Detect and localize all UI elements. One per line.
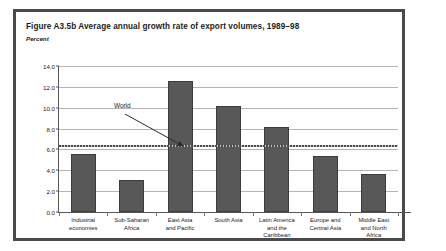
x-axis-category-line: and North: [344, 225, 404, 233]
y-axis-tick-label: 14.0: [43, 63, 55, 70]
x-axis-tick-mark: [204, 212, 205, 216]
figure-frame: Figure A3.5b Average annual growth rate …: [13, 9, 405, 241]
world-reference-line: [59, 145, 398, 147]
bar: [313, 156, 338, 212]
x-axis-tick-mark: [350, 212, 351, 216]
x-axis-baseline: [58, 212, 411, 213]
x-axis-category-line: Africa: [344, 232, 404, 240]
x-axis-tick-mark: [301, 212, 302, 216]
y-axis-tick-label: 0.0: [46, 209, 55, 216]
y-axis-tick-label: 4.0: [46, 167, 55, 174]
y-axis-tick-mark: [56, 149, 59, 150]
y-axis-tick-label: 8.0: [46, 125, 55, 132]
y-axis-tick-label: 10.0: [43, 104, 55, 111]
x-axis-tick-mark: [156, 212, 157, 216]
y-axis-tick-label: 12.0: [43, 83, 55, 90]
x-axis-tick-mark: [398, 212, 399, 216]
y-axis-tick-label: 2.0: [46, 188, 55, 195]
gridline: [59, 87, 398, 88]
y-axis-tick-label: 6.0: [46, 146, 55, 153]
bar: [119, 180, 144, 212]
x-axis-category-line: Caribbean: [247, 232, 307, 240]
axis-unit-label: Percent: [26, 35, 49, 42]
x-axis-category-line: Middle East: [344, 217, 404, 225]
bar: [216, 106, 241, 212]
y-axis-tick-mark: [56, 86, 59, 87]
bar: [361, 174, 386, 212]
bar: [264, 127, 289, 213]
y-axis-tick-mark: [56, 191, 59, 192]
y-axis-tick-mark: [56, 170, 59, 171]
x-axis-tick-mark: [107, 212, 108, 216]
y-axis-tick-mark: [56, 66, 59, 67]
x-axis-category-label: Middle Eastand NorthAfrica: [344, 217, 404, 240]
world-reference-label: World: [114, 102, 131, 109]
x-axis-tick-mark: [253, 212, 254, 216]
y-axis-tick-mark: [56, 107, 59, 108]
plot-area: 0.02.04.06.08.010.012.014.0 Industrialec…: [59, 66, 398, 212]
gridline: [59, 66, 398, 67]
x-axis-category-line: and Pacific: [150, 225, 210, 233]
y-axis-tick-mark: [56, 128, 59, 129]
x-axis-tick-mark: [59, 212, 60, 216]
bar: [71, 154, 96, 212]
figure-title: Figure A3.5b Average annual growth rate …: [26, 22, 299, 31]
